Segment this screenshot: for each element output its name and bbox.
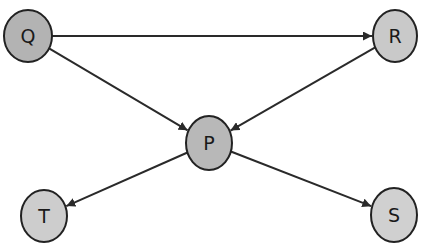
nodes-layer: QRPTS [4,10,417,242]
node-t: T [21,190,67,242]
node-q: Q [4,10,52,62]
node-label: P [203,132,214,154]
directed-graph: QRPTS [0,0,428,251]
node-label: S [388,204,400,226]
node-r: R [373,10,417,62]
node-label: Q [21,25,36,47]
edge-q-to-p [49,48,188,130]
node-p: P [186,116,232,170]
edge-r-to-p [231,47,376,130]
node-s: S [371,188,417,242]
edge-p-to-s [231,151,371,206]
edge-p-to-t [66,153,187,207]
node-label: R [388,25,401,47]
node-label: T [37,205,50,227]
